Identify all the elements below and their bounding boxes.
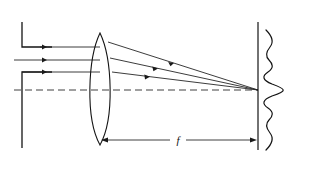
- incident-ray-group: [14, 45, 100, 75]
- biconvex-lens: [90, 33, 110, 145]
- refracted-ray-middle: [110, 58, 258, 90]
- focal-length-label: f: [176, 134, 181, 146]
- lens-outline: [90, 33, 110, 145]
- incident-ray-upper-arrowhead: [42, 45, 47, 50]
- optics-figure: f: [0, 0, 312, 169]
- optics-diagram-canvas: f: [0, 0, 312, 169]
- incident-ray-middle-arrowhead: [42, 58, 47, 63]
- slit-aperture: [22, 22, 52, 148]
- refracted-ray-lower-arrowhead: [144, 75, 150, 80]
- aperture-lower-blade: [22, 72, 52, 148]
- refracted-ray-upper: [108, 42, 258, 90]
- diffraction-intensity-profile: [264, 30, 283, 150]
- focal-dimension-arrow-right: [250, 137, 257, 142]
- incident-ray-lower-arrowhead: [42, 70, 47, 75]
- refracted-ray-lower: [112, 72, 258, 90]
- aperture-upper-blade: [22, 22, 52, 47]
- refracted-ray-group: [108, 42, 258, 90]
- focal-length-dimension: f: [101, 134, 257, 146]
